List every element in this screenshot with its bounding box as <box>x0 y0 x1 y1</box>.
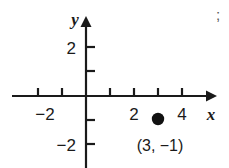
y-axis-arrowhead <box>81 16 92 27</box>
graph-canvas: −2 2 4 2 −2 y x (3, −1) ; <box>0 0 229 168</box>
x-tick-label-4: 4 <box>177 105 186 124</box>
y-axis-label: y <box>69 10 79 29</box>
x-axis-label: x <box>206 105 216 124</box>
y-tick-label-2: 2 <box>67 39 76 58</box>
x-tick-label-2: 2 <box>129 105 138 124</box>
x-axis-arrowhead <box>206 91 217 102</box>
y-tick-label-neg2: −2 <box>57 136 76 155</box>
corner-semicolon-mark: ; <box>216 6 220 23</box>
data-point-coordinate-label: (3, −1) <box>137 137 184 154</box>
x-tick-label-neg2: −2 <box>35 105 54 124</box>
data-point-marker <box>152 113 164 125</box>
coordinate-plane-figure: −2 2 4 2 −2 y x (3, −1) ; <box>0 0 229 168</box>
